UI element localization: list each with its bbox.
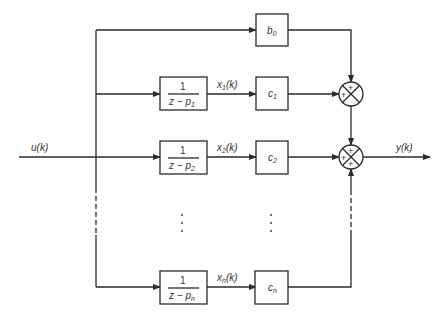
svg-text:+: + xyxy=(341,90,346,100)
summing-junction-2: + + + xyxy=(339,145,363,169)
ellipsis-markers xyxy=(181,214,272,232)
feedthrough-path: b0 xyxy=(96,14,351,82)
branch-2: 1 z − p2 x2(k) c2 xyxy=(96,141,339,174)
tf-denominator-1: z − p1 xyxy=(168,96,195,108)
state-label-2: x2(k) xyxy=(216,142,238,154)
input-label: u(k) xyxy=(31,142,48,153)
state-label-n: xn(k) xyxy=(216,272,238,284)
branch-n: 1 z − pn xn(k) cn xyxy=(96,169,351,304)
input-signal: u(k) xyxy=(19,142,96,157)
output-label: y(k) xyxy=(395,142,413,153)
output-signal: y(k) xyxy=(363,142,430,157)
svg-text:1: 1 xyxy=(180,145,186,156)
summing-junction-1: + + xyxy=(339,82,363,145)
tf-denominator-n: z − pn xyxy=(168,290,195,302)
branch-1: 1 z − p1 x1(k) c1 xyxy=(96,77,339,110)
state-label-1: x1(k) xyxy=(216,79,238,91)
svg-text:1: 1 xyxy=(180,81,186,92)
svg-text:+: + xyxy=(348,83,353,93)
svg-text:1: 1 xyxy=(180,275,186,286)
tf-denominator-2: z − p2 xyxy=(168,160,195,172)
svg-text:+: + xyxy=(341,153,346,163)
svg-text:+: + xyxy=(348,146,353,156)
block-diagram: u(k) b0 1 z − p1 x1(k) c1 + + xyxy=(0,0,442,317)
svg-text:+: + xyxy=(348,159,353,169)
